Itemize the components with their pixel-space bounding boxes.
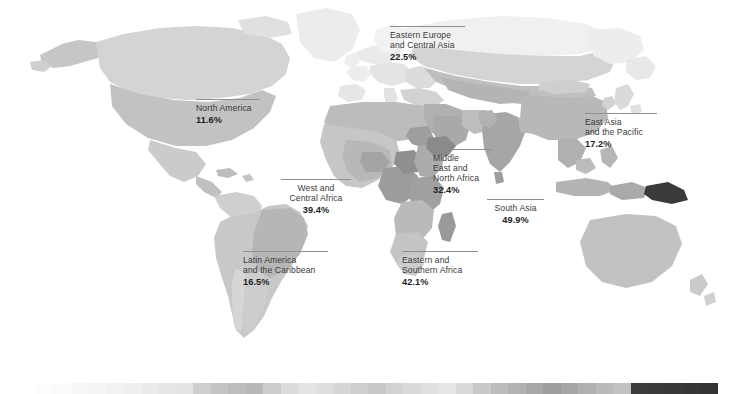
legend-color-bar xyxy=(18,383,718,394)
callout-value: 11.6% xyxy=(196,115,260,126)
legend-segment xyxy=(211,383,229,394)
callout-region-name: North Africa xyxy=(433,173,492,183)
callout-eastern-southern-africa: Eastern andSouthern Africa42.1% xyxy=(402,251,478,288)
callout-value: 22.5% xyxy=(390,52,465,63)
legend-segment xyxy=(351,383,369,394)
legend-segment xyxy=(578,383,596,394)
legend-segment xyxy=(193,383,211,394)
legend-segment xyxy=(508,383,526,394)
legend-segment xyxy=(176,383,194,394)
callout-region-name: Southern Africa xyxy=(402,265,478,275)
callout-rule xyxy=(487,199,544,200)
legend-segment xyxy=(228,383,246,394)
legend-segment xyxy=(88,383,106,394)
callout-west-central-africa: West andCentral Africa39.4% xyxy=(281,179,351,216)
callout-rule xyxy=(585,113,657,114)
legend-segment xyxy=(526,383,544,394)
callout-region-name: North America xyxy=(196,103,260,113)
legend-segment xyxy=(596,383,614,394)
legend-segment xyxy=(613,383,631,394)
legend-segment xyxy=(403,383,421,394)
legend-segment xyxy=(18,383,36,394)
legend-strip xyxy=(0,360,730,394)
callout-north-america: North America11.6% xyxy=(196,99,260,126)
legend-segment xyxy=(158,383,176,394)
legend-segment xyxy=(386,383,404,394)
callout-region-name: Latin America xyxy=(243,255,328,265)
callout-region-name: East Asia xyxy=(585,117,657,127)
callout-region-name: Eastern Europe xyxy=(390,30,465,40)
legend-segment xyxy=(456,383,474,394)
callout-latin-america-caribbean: Latin Americaand the Caribbean16.5% xyxy=(243,251,328,288)
callout-region-name: and Central Asia xyxy=(390,40,465,50)
legend-segment xyxy=(561,383,579,394)
callout-middle-east-north-africa: MiddleEast andNorth Africa32.4% xyxy=(433,149,492,196)
callout-east-asia-pacific: East Asiaand the Pacific17.2% xyxy=(585,113,657,150)
legend-segment xyxy=(631,383,649,394)
legend-segment xyxy=(36,383,54,394)
legend-segment xyxy=(648,383,666,394)
callout-value: 32.4% xyxy=(433,185,492,196)
legend-segment xyxy=(543,383,561,394)
legend-segment xyxy=(368,383,386,394)
world-map-svg xyxy=(0,0,730,360)
legend-segment xyxy=(473,383,491,394)
callout-value: 16.5% xyxy=(243,277,328,288)
callout-region-name: East and xyxy=(433,163,492,173)
callout-value: 17.2% xyxy=(585,139,657,150)
callout-region-name: Central Africa xyxy=(281,193,351,203)
callout-rule xyxy=(402,251,478,252)
legend-segment xyxy=(263,383,281,394)
legend-segment xyxy=(281,383,299,394)
legend-segment xyxy=(106,383,124,394)
legend-segment xyxy=(246,383,264,394)
callout-rule xyxy=(390,26,465,27)
figure-root: North America11.6%Eastern Europeand Cent… xyxy=(0,0,730,394)
legend-segment xyxy=(71,383,89,394)
legend-segment xyxy=(333,383,351,394)
world-map: North America11.6%Eastern Europeand Cent… xyxy=(0,0,730,360)
callout-region-name: Eastern and xyxy=(402,255,478,265)
callout-region-name: Middle xyxy=(433,153,492,163)
legend-segment xyxy=(438,383,456,394)
callout-region-name: and the Caribbean xyxy=(243,265,328,275)
legend-segment xyxy=(53,383,71,394)
legend-segment xyxy=(298,383,316,394)
callout-rule xyxy=(196,99,260,100)
callout-rule xyxy=(281,179,351,180)
callout-rule xyxy=(433,149,492,150)
legend-segment xyxy=(491,383,509,394)
callout-value: 39.4% xyxy=(281,205,351,216)
legend-segment xyxy=(701,383,719,394)
legend-segment xyxy=(123,383,141,394)
callout-value: 42.1% xyxy=(402,277,478,288)
legend-segment xyxy=(421,383,439,394)
legend-segment xyxy=(683,383,701,394)
callout-south-asia: South Asia49.9% xyxy=(487,199,544,226)
legend-segment xyxy=(316,383,334,394)
callout-eastern-europe-central-asia: Eastern Europeand Central Asia22.5% xyxy=(390,26,465,63)
callout-value: 49.9% xyxy=(487,215,544,226)
callout-region-name: and the Pacific xyxy=(585,127,657,137)
callout-region-name: South Asia xyxy=(487,203,544,213)
callout-rule xyxy=(243,251,328,252)
legend-segment xyxy=(141,383,159,394)
legend-segment xyxy=(666,383,684,394)
callout-region-name: West and xyxy=(281,183,351,193)
